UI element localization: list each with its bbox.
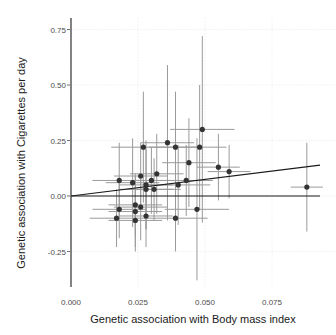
y-axis-ticks: -0.250.000.250.500.75 — [48, 26, 70, 257]
x-tick-label: 0.050 — [195, 298, 216, 307]
data-point — [151, 187, 156, 192]
data-point — [227, 169, 232, 174]
data-point — [194, 207, 199, 212]
data-point — [143, 182, 148, 187]
data-point — [173, 145, 178, 150]
data-point — [197, 145, 202, 150]
data-point — [149, 178, 154, 183]
data-point — [186, 160, 191, 165]
y-axis-title: Genetic association with Cigarettes per … — [15, 57, 27, 269]
data-point — [117, 207, 122, 212]
y-tick-label: -0.25 — [48, 248, 67, 257]
y-tick-label: 0.75 — [50, 26, 66, 35]
data-point — [133, 218, 138, 223]
data-point — [184, 178, 189, 183]
data-point — [117, 178, 122, 183]
data-point — [133, 209, 138, 214]
data-point — [173, 216, 178, 221]
data-point — [130, 180, 135, 185]
x-tick-label: 0.000 — [61, 298, 82, 307]
data-point — [114, 216, 119, 221]
data-point — [200, 127, 205, 132]
data-point — [143, 187, 148, 192]
y-tick-label: 0.00 — [50, 192, 66, 201]
data-point — [165, 140, 170, 145]
data-point — [138, 173, 143, 178]
data-point — [216, 165, 221, 170]
y-tick-label: 0.50 — [50, 81, 66, 90]
x-axis-ticks: 0.0000.0250.0500.075 — [61, 298, 283, 307]
data-point — [141, 145, 146, 150]
data-point — [176, 182, 181, 187]
scatter-chart: -0.250.000.250.500.75 0.0000.0250.0500.0… — [0, 0, 336, 335]
x-tick-label: 0.025 — [128, 298, 149, 307]
data-point — [143, 213, 148, 218]
grid-lines — [71, 18, 336, 287]
x-axis-title: Genetic association with Body mass index — [90, 313, 296, 325]
x-tick-label: 0.075 — [262, 298, 283, 307]
error-bars — [90, 36, 323, 280]
data-point — [138, 205, 143, 210]
data-point — [154, 171, 159, 176]
y-tick-label: 0.25 — [50, 137, 66, 146]
data-point — [133, 202, 138, 207]
data-point — [304, 185, 309, 190]
